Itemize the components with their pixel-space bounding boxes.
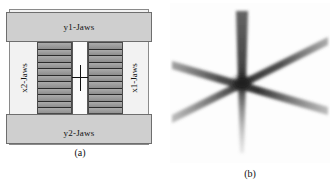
jaw-y1-label: y1-Jaws: [64, 22, 95, 32]
figure-root: y1-Jaws x2-Jaws x1-Jaws 1.0 cm: [0, 0, 333, 185]
jaw-y2-label: y2-Jaws: [64, 128, 95, 138]
jaw-y2: y2-Jaws: [6, 114, 152, 144]
collimator-schematic: y1-Jaws x2-Jaws x1-Jaws 1.0 cm: [9, 9, 149, 145]
panel-a: y1-Jaws x2-Jaws x1-Jaws 1.0 cm: [9, 9, 151, 161]
panel-b: (b): [170, 3, 330, 185]
starshot-film-image: [170, 3, 330, 163]
center-marker-horizontal: [72, 77, 88, 78]
panel-a-caption: (a): [9, 147, 151, 158]
jaw-x1-label: x1-Jaws: [129, 63, 139, 93]
isocenter-hub: [233, 76, 251, 90]
jaw-x2: x2-Jaws: [11, 42, 37, 114]
leaf-bank-right: [88, 42, 123, 114]
leaf-bank-left: [37, 42, 72, 114]
jaw-y1: y1-Jaws: [6, 12, 152, 42]
jaw-x2-label: x2-Jaws: [19, 63, 29, 93]
center-marker-vertical: [80, 65, 81, 91]
panel-b-caption: (b): [170, 168, 330, 179]
jaw-x1: x1-Jaws: [121, 42, 147, 114]
